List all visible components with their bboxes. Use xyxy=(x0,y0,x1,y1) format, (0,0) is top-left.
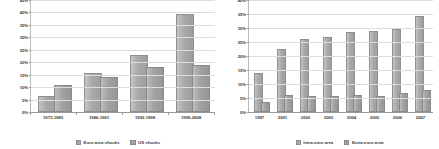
legend-label: Extra-euro area xyxy=(352,140,383,145)
y-axis-tick-mark xyxy=(29,87,32,88)
y-axis-tick-mark xyxy=(247,14,250,15)
legend-label: US shocks xyxy=(138,140,160,145)
bar xyxy=(100,77,118,112)
x-axis-tick-label: 2007 xyxy=(416,115,425,120)
gridline xyxy=(249,28,433,29)
y-axis-tick-mark xyxy=(247,84,250,85)
y-axis-tick-label: 40% xyxy=(20,10,28,15)
legend-item: Euro area shocks xyxy=(76,140,120,145)
y-axis-tick-label: 30% xyxy=(20,35,28,40)
y-axis-tick-mark xyxy=(29,75,32,76)
y-axis-tick-label: 15% xyxy=(20,72,28,77)
bar-group xyxy=(31,0,77,112)
y-axis-tick-label: 40% xyxy=(238,0,246,3)
y-axis-tick-label: 45% xyxy=(20,0,28,3)
y-axis-tick-mark xyxy=(247,98,250,99)
gridline xyxy=(249,98,433,99)
legend-swatch-icon xyxy=(130,140,135,145)
x-axis-separator xyxy=(30,112,31,115)
y-axis-tick-label: 5% xyxy=(22,97,28,102)
y-axis-tick-mark xyxy=(29,50,32,51)
plot-area-left xyxy=(30,0,215,112)
y-axis-tick-label: 0% xyxy=(22,110,28,115)
x-axis-tick-label: 2005 xyxy=(370,115,379,120)
y-axis-tick-mark xyxy=(29,0,32,1)
y-axis-tick-mark xyxy=(29,100,32,101)
bar-group xyxy=(77,0,123,112)
legend-swatch-icon xyxy=(296,140,301,145)
x-axis-tick-label: 1999-2008 xyxy=(181,115,201,120)
x-axis-tick-label: 2001 xyxy=(278,115,287,120)
chart-panel-shocks-by-period: 0%5%10%15%20%25%30%35%40%45% 1973-198519… xyxy=(0,0,220,149)
legend-label: Euro area shocks xyxy=(84,140,120,145)
gridline xyxy=(31,75,215,76)
y-axis-tick-label: 25% xyxy=(20,47,28,52)
y-axis-tick-mark xyxy=(247,42,250,43)
gridline xyxy=(31,0,215,1)
x-axis-separator xyxy=(122,112,123,115)
gridline xyxy=(31,62,215,63)
gridline xyxy=(31,50,215,51)
y-axis-tick-mark xyxy=(29,25,32,26)
legend-item: Intra-euro area xyxy=(296,140,334,145)
x-axis-tick-label: 1973-1985 xyxy=(43,115,63,120)
bar xyxy=(399,93,408,112)
y-axis-tick-label: 25% xyxy=(238,40,246,45)
bar xyxy=(422,90,431,112)
y-axis-tick-label: 0% xyxy=(240,110,246,115)
x-axis-tick-label: 2003 xyxy=(324,115,333,120)
y-axis-tick-mark xyxy=(247,0,250,1)
legend-label: Intra-euro area xyxy=(303,140,333,145)
legend-right: Intra-euro areaExtra-euro area xyxy=(220,140,439,145)
gridline xyxy=(31,12,215,13)
x-axis-right: 19972001200220032004200520062007 xyxy=(248,112,432,126)
x-axis-tick-label: 2006 xyxy=(393,115,402,120)
y-axis-right: 0%5%10%15%20%25%30%35%40% xyxy=(224,0,248,112)
legend-swatch-icon xyxy=(76,140,81,145)
y-axis-tick-mark xyxy=(247,28,250,29)
bar xyxy=(192,65,210,112)
gridline xyxy=(31,100,215,101)
y-axis-left: 0%5%10%15%20%25%30%35%40%45% xyxy=(6,0,30,112)
gridline xyxy=(31,25,215,26)
gridline xyxy=(249,0,433,1)
plot-wrap-right: 0%5%10%15%20%25%30%35%40% 19972001200220… xyxy=(220,0,439,128)
x-axis-separator xyxy=(214,112,215,115)
plot-area-right xyxy=(248,0,433,112)
x-axis-tick-label: 1997 xyxy=(255,115,264,120)
bar-group xyxy=(123,0,169,112)
gridline xyxy=(249,84,433,85)
gridline xyxy=(249,56,433,57)
plot-wrap-left: 0%5%10%15%20%25%30%35%40%45% 1973-198519… xyxy=(0,0,220,128)
y-axis-tick-label: 35% xyxy=(20,22,28,27)
y-axis-tick-mark xyxy=(29,62,32,63)
bar-group xyxy=(169,0,215,112)
x-axis-tick-label: 2004 xyxy=(347,115,356,120)
y-axis-tick-mark xyxy=(29,37,32,38)
legend-swatch-icon xyxy=(344,140,349,145)
y-axis-tick-label: 15% xyxy=(238,68,246,73)
gridline xyxy=(249,70,433,71)
y-axis-tick-mark xyxy=(29,12,32,13)
y-axis-tick-label: 30% xyxy=(238,26,246,31)
gridline xyxy=(249,14,433,15)
y-axis-tick-mark xyxy=(247,56,250,57)
chart-panel-euro-area-trade: 0%5%10%15%20%25%30%35%40% 19972001200220… xyxy=(220,0,439,149)
y-axis-tick-label: 5% xyxy=(240,96,246,101)
gridline xyxy=(249,42,433,43)
x-axis-separator xyxy=(168,112,169,115)
dual-bar-chart-figure: 0%5%10%15%20%25%30%35%40%45% 1973-198519… xyxy=(0,0,439,149)
x-axis-left: 1973-19851986-19911992-19981999-2008 xyxy=(30,112,214,126)
gridline xyxy=(31,87,215,88)
legend-left: Euro area shocksUS shocks xyxy=(0,140,228,145)
legend-item: US shocks xyxy=(130,140,160,145)
bar xyxy=(261,102,270,112)
x-axis-tick-label: 1986-1991 xyxy=(89,115,109,120)
x-axis-tick-label: 1992-1998 xyxy=(135,115,155,120)
x-axis-tick-label: 2002 xyxy=(301,115,310,120)
bar xyxy=(54,85,72,112)
gridline xyxy=(31,37,215,38)
y-axis-tick-label: 10% xyxy=(238,82,246,87)
y-axis-tick-mark xyxy=(247,70,250,71)
y-axis-tick-label: 35% xyxy=(238,12,246,17)
